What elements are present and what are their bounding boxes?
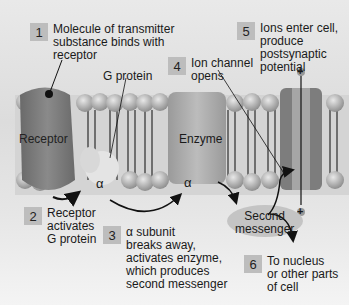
step-1: 1 Molecule of transmitter substance bind… <box>30 23 174 62</box>
step-number: 2 <box>24 207 42 225</box>
step-number: 3 <box>103 226 121 244</box>
step-number: 5 <box>237 22 255 40</box>
step-number: 6 <box>244 255 262 273</box>
step-text: α subunit breaks away, activates enzyme,… <box>126 226 227 291</box>
second-messenger-label: Second messenger <box>235 210 294 236</box>
enzyme-label: Enzyme <box>179 133 222 146</box>
alpha-subunit-on-enzyme: α <box>184 176 192 189</box>
step-5: 5 Ions enter cell, produce postsynaptic … <box>237 22 338 74</box>
diagram-canvas: 1 Molecule of transmitter substance bind… <box>0 0 349 305</box>
alpha-subunit-on-g-protein: α <box>96 177 104 190</box>
step-6: 6 To nucleus or other parts of cell <box>244 255 338 294</box>
receptor-label: Receptor <box>19 133 68 146</box>
g-protein-label: G protein <box>103 70 152 83</box>
step-text: Receptor activates G protein <box>47 207 96 246</box>
step-text: To nucleus or other parts of cell <box>267 255 338 294</box>
step-3: 3 α subunit breaks away, activates enzym… <box>103 226 227 291</box>
step-number: 1 <box>30 23 48 41</box>
step-number: 4 <box>168 57 186 75</box>
step-2: 2 Receptor activates G protein <box>24 207 96 246</box>
plus-ion-top: + <box>297 65 303 78</box>
plus-ion-bottom: + <box>297 205 303 218</box>
step-text: Molecule of transmitter substance binds … <box>53 23 174 62</box>
